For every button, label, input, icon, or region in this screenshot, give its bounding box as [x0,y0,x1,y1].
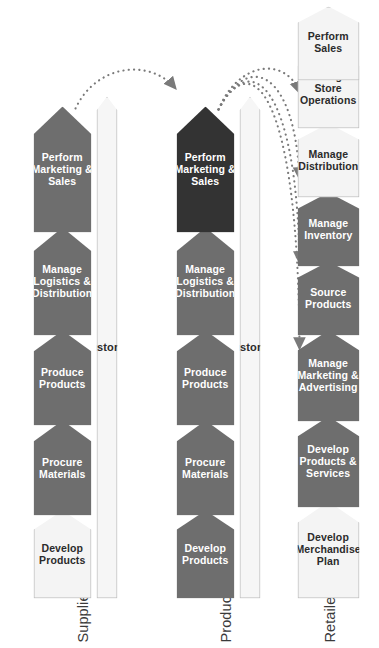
process-supplier-procure-materials[interactable]: Procure Materials [33,420,91,515]
process-retailer-manage-inventory[interactable]: Manage Inventory [297,192,359,266]
process-supplier-develop-products[interactable]: Develop Products [33,510,91,598]
process-retailer-develop-products-and-services[interactable]: Develop Products & Services [297,416,359,507]
diagram-canvas: Supplier Develop Products Procure Materi… [0,0,379,648]
process-retailer-manage-marketing-and-advertising[interactable]: Manage Marketing & Advertising [297,330,359,421]
process-retailer-manage-distribution[interactable]: Manage Distribution [297,123,359,197]
flow-producer-to-retailer-develop [218,68,299,109]
support-process-supplier-manage-customer-service[interactable]: Manage Customer Service [96,96,117,598]
process-producer-develop-products[interactable]: Develop Products [176,510,234,598]
process-producer-manage-logistics-and-distribution[interactable]: Manage Logistics & Distribution [176,227,234,335]
process-retailer-source-products[interactable]: Source Products [297,261,359,335]
lane-label-retailer: Retailer [321,591,337,642]
process-producer-perform-marketing-and-sales[interactable]: Perform Marketing & Sales [176,106,234,232]
support-process-producer-manage-customer-service[interactable]: Manage Customer Service [239,96,260,598]
diagram-world: Supplier Develop Products Procure Materi… [0,0,379,648]
process-supplier-manage-logistics-and-distribution[interactable]: Manage Logistics & Distribution [33,227,91,335]
process-supplier-produce-products[interactable]: Produce Products [33,330,91,425]
process-supplier-perform-marketing-and-sales[interactable]: Perform Marketing & Sales [33,106,91,232]
process-producer-procure-materials[interactable]: Procure Materials [176,420,234,515]
flow-supplier-to-producer [75,69,175,108]
process-retailer-perform-sales[interactable]: Perform Sales [297,6,359,80]
process-retailer-develop-merchandise-plan[interactable]: Develop Merchandise Plan [297,501,359,598]
process-producer-produce-products[interactable]: Produce Products [176,330,234,425]
